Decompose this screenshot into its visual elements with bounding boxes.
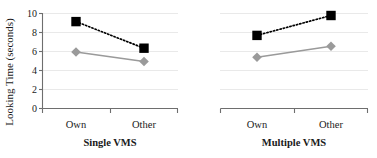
marker-square [326, 11, 335, 20]
series-black-square-left [71, 17, 148, 53]
gridlines [42, 14, 368, 90]
marker-diamond [252, 52, 262, 62]
marker-square [139, 44, 148, 53]
y-tick-label-0: 0 [32, 103, 37, 114]
y-tick-label-10: 10 [27, 8, 37, 19]
marker-square [71, 17, 80, 26]
x-tick-label-own-right: Own [247, 119, 268, 130]
marker-diamond [326, 42, 336, 52]
marker-diamond [71, 47, 81, 57]
series-gray-diamond-left [71, 47, 149, 66]
y-tick-label-8: 8 [32, 27, 37, 38]
panel-label-single-vms: Single VMS [83, 137, 136, 148]
y-axis [39, 13, 43, 109]
x-tick-label-other-right: Other [319, 119, 343, 130]
y-tick-label-2: 2 [32, 84, 37, 95]
chart-figure: Looking Time (seconds) 10 8 6 4 2 0 [0, 0, 377, 158]
panel-label-multiple-vms: Multiple VMS [262, 137, 326, 148]
y-tick-label-4: 4 [32, 65, 37, 76]
series-black-square-right [252, 11, 335, 40]
y-axis-label: Looking Time (seconds) [3, 18, 16, 126]
x-axis-left [43, 109, 179, 114]
marker-square [252, 31, 261, 40]
chart-svg: Looking Time (seconds) 10 8 6 4 2 0 [0, 0, 377, 158]
x-tick-label-other-left: Other [132, 119, 156, 130]
marker-diamond [139, 57, 149, 67]
x-tick-label-own-left: Own [66, 119, 87, 130]
x-axis-right [221, 109, 369, 114]
y-tick-label-6: 6 [32, 46, 37, 57]
